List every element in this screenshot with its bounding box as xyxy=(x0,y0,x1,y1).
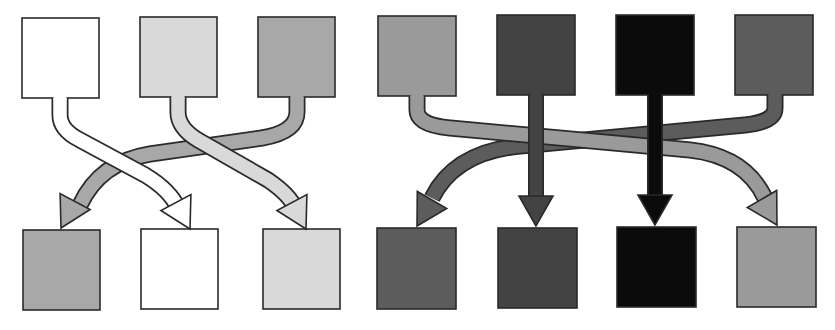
left-panel-top-box-3 xyxy=(258,17,335,97)
right-panel-arrow-3 xyxy=(519,95,553,226)
left-panel xyxy=(22,17,340,310)
right-panel-top-box-2 xyxy=(497,15,575,95)
left-panel-top-box-1 xyxy=(22,18,99,98)
left-panel-top-box-2 xyxy=(140,17,217,97)
arrow-joint xyxy=(54,96,67,100)
diagram-svg xyxy=(0,0,835,330)
arrow-joint xyxy=(769,93,782,97)
right-panel-top-box-3 xyxy=(616,15,694,95)
right-panel-bottom-box-2 xyxy=(498,228,577,308)
right-panel xyxy=(377,15,816,309)
permutation-diagram xyxy=(0,0,835,330)
right-panel-bottom-box-4 xyxy=(737,227,816,307)
left-panel-bottom-box-1 xyxy=(23,230,100,310)
right-panel-bottom-box-3 xyxy=(617,227,696,307)
right-panel-top-box-4 xyxy=(735,15,813,95)
arrow-joint xyxy=(649,93,661,97)
arrow-joint xyxy=(411,94,424,98)
left-panel-bottom-box-3 xyxy=(263,229,340,309)
arrow-joint xyxy=(172,95,185,99)
right-panel-top-box-1 xyxy=(378,16,456,96)
left-panel-bottom-box-2 xyxy=(141,229,218,309)
arrow-joint xyxy=(530,93,542,97)
arrowhead-icon xyxy=(638,195,672,225)
right-panel-arrow-4 xyxy=(638,95,672,225)
right-panel-bottom-box-1 xyxy=(377,228,456,309)
arrow-joint xyxy=(291,95,304,99)
arrowhead-icon xyxy=(519,196,553,226)
